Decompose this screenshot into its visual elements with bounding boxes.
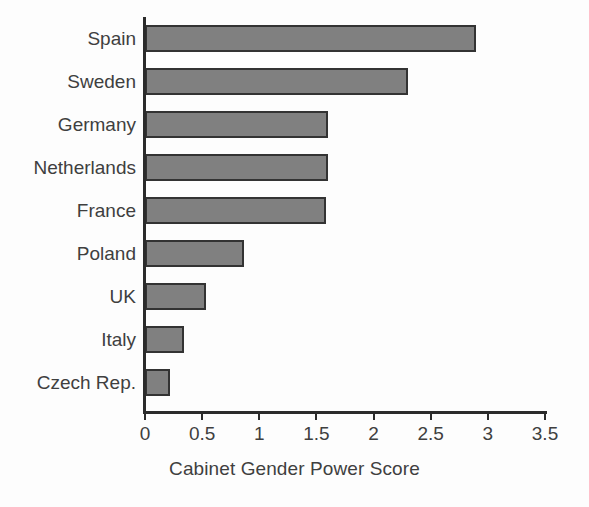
x-axis-tick-label: 2.5 <box>401 423 461 445</box>
x-axis-tick-label: 2 <box>344 423 404 445</box>
y-axis-line <box>143 17 146 413</box>
x-axis-tick-label: 3 <box>458 423 518 445</box>
bar <box>145 240 244 267</box>
x-axis-tick-mark <box>373 411 375 420</box>
x-axis-tick-mark <box>201 411 203 420</box>
y-axis-tick-label: Spain <box>0 17 136 60</box>
y-axis-tick-label: UK <box>0 275 136 318</box>
bar <box>145 197 326 224</box>
bar <box>145 25 476 52</box>
x-axis-tick-mark <box>487 411 489 420</box>
x-axis-tick-mark <box>544 411 546 420</box>
y-axis-tick-label: Germany <box>0 103 136 146</box>
bar <box>145 154 328 181</box>
bar <box>145 283 206 310</box>
x-axis-title: Cabinet Gender Power Score <box>0 458 589 480</box>
bar <box>145 369 170 396</box>
bar <box>145 111 328 138</box>
x-axis-tick-label: 1.5 <box>286 423 346 445</box>
y-axis-category-labels: SpainSwedenGermanyNetherlandsFrancePolan… <box>0 17 136 411</box>
y-axis-tick-label: Poland <box>0 232 136 275</box>
x-axis-tick-mark <box>315 411 317 420</box>
y-axis-tick-label: Italy <box>0 318 136 361</box>
x-axis-tick-mark <box>258 411 260 420</box>
x-axis-tick-label: 0.5 <box>172 423 232 445</box>
bar-chart: SpainSwedenGermanyNetherlandsFrancePolan… <box>0 0 589 507</box>
bar-series <box>145 17 545 411</box>
bar <box>145 326 184 353</box>
x-axis-tick-mark <box>144 411 146 420</box>
y-axis-tick-label: Czech Rep. <box>0 361 136 404</box>
y-axis-tick-label: France <box>0 189 136 232</box>
x-axis-tick-label: 0 <box>115 423 175 445</box>
x-axis-tick-mark <box>430 411 432 420</box>
x-axis-tick-label: 1 <box>229 423 289 445</box>
y-axis-tick-label: Netherlands <box>0 146 136 189</box>
bar <box>145 68 408 95</box>
y-axis-tick-label: Sweden <box>0 60 136 103</box>
x-axis-tick-label: 3.5 <box>515 423 575 445</box>
